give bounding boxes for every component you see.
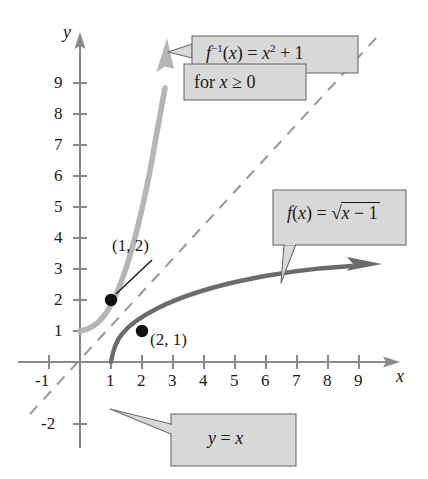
point-label-1-2: (1, 2) xyxy=(112,236,149,256)
callout-identity-y: y xyxy=(208,428,216,448)
callout-inverse-tail-text: + 1 xyxy=(275,43,303,63)
callout-inverse-domain-var: x xyxy=(220,72,228,92)
callout-inverse-domain: for x ≥ 0 xyxy=(194,72,255,93)
y-tick-minus-2: -2 xyxy=(41,414,55,434)
y-tick-4: 4 xyxy=(54,228,63,248)
x-tick-4: 4 xyxy=(199,371,208,391)
callout-identity-x: x xyxy=(235,428,243,448)
callout-inverse-mid: (x) = x xyxy=(223,43,270,63)
callout-identity-tail xyxy=(110,409,171,434)
callout-function-tail xyxy=(281,244,296,283)
x-tick-8: 8 xyxy=(323,371,332,391)
x-tick-5: 5 xyxy=(230,371,239,391)
y-tick-8: 8 xyxy=(54,104,63,124)
callout-function-args: (x) = xyxy=(292,203,331,223)
point-label-2-1: (2, 1) xyxy=(150,330,187,350)
x-tick-6: 6 xyxy=(261,371,270,391)
y-tick-2: 2 xyxy=(54,290,63,310)
y-tick-1: 1 xyxy=(54,321,63,341)
x-axis-label: x xyxy=(396,366,404,387)
y-axis-label: y xyxy=(63,22,71,43)
curve-function xyxy=(111,266,352,362)
curve-inverse-arrowhead xyxy=(157,38,175,72)
y-tick-3: 3 xyxy=(54,259,63,279)
x-tick-minus-1: -1 xyxy=(35,371,49,391)
curve-inverse-function xyxy=(80,88,165,331)
callout-inverse-exponent-neg1: −1 xyxy=(211,42,223,54)
callout-identity-formula: y = x xyxy=(208,428,243,449)
callout-function-radicand: x − 1 xyxy=(341,202,380,223)
x-tick-3: 3 xyxy=(168,371,177,391)
callout-inverse-tail xyxy=(168,44,192,58)
point-2-1-marker xyxy=(136,325,148,337)
x-tick-7: 7 xyxy=(292,371,301,391)
point-1-2-marker xyxy=(105,294,117,306)
y-tick-9: 9 xyxy=(54,73,63,93)
y-tick-6: 6 xyxy=(54,166,63,186)
inverse-function-figure: y x 9 8 7 6 5 4 3 2 1 -2 -1 1 2 3 4 5 6 … xyxy=(0,0,428,479)
x-tick-1: 1 xyxy=(106,371,115,391)
callout-identity-equals: = xyxy=(221,428,231,448)
x-tick-2: 2 xyxy=(137,371,146,391)
callout-function-formula: f(x) = √x − 1 xyxy=(287,202,380,224)
y-tick-5: 5 xyxy=(54,197,63,217)
y-tick-7: 7 xyxy=(54,135,63,155)
x-tick-9: 9 xyxy=(354,371,363,391)
callout-inverse-formula: f−1(x) = x2 + 1 xyxy=(206,43,304,64)
